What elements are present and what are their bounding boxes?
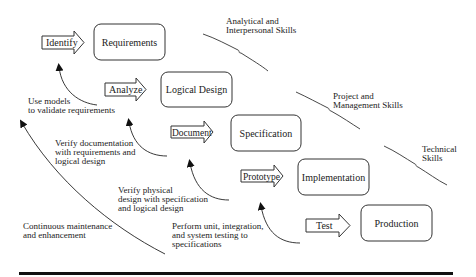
stage-prototype: Prototype <box>241 165 283 187</box>
phase-production: Production <box>361 205 432 241</box>
phase-label-specification: Specification <box>240 128 293 139</box>
skill-label-analytical-2: Interpersonal Skills <box>226 25 297 35</box>
feedback-verify-physical: Verify physical design with specificatio… <box>118 163 229 213</box>
phase-logical-design: Logical Design <box>161 72 232 107</box>
skill-label-project-2: Management Skills <box>333 100 403 110</box>
action-label-test: Test <box>316 220 333 231</box>
phase-label-implementation: Implementation <box>302 172 365 183</box>
action-label-analyze: Analyze <box>109 84 143 95</box>
phase-implementation: Implementation <box>298 159 369 195</box>
sdlc-diagram: Identify Requirements Analyze Logical De… <box>0 0 476 277</box>
feedback-arrow <box>261 206 300 243</box>
feedback-verify-documentation: Verify documentation with requirements a… <box>55 122 167 166</box>
stage-analyze: Analyze <box>105 78 146 101</box>
skill-divider-line <box>203 34 268 71</box>
feedback-perform-testing: Perform unit, integration, and system te… <box>172 206 300 249</box>
feedback-label-line: specifications <box>172 239 222 249</box>
feedback-label-line: to validate requirements <box>28 105 115 115</box>
skill-technical: Technical Skills <box>384 144 457 185</box>
skill-project: Project and Management Skills <box>296 91 403 129</box>
skill-label-technical-2: Skills <box>422 153 443 163</box>
phase-requirements: Requirements <box>94 24 165 60</box>
stage-test: Test <box>306 214 350 237</box>
action-label-prototype: Prototype <box>243 172 280 182</box>
phase-label-requirements: Requirements <box>102 37 158 48</box>
action-label-identify: Identify <box>46 37 78 48</box>
skill-analytical: Analytical and Interpersonal Skills <box>203 16 297 71</box>
stage-document: Document <box>171 121 213 143</box>
feedback-label-line: logical design <box>55 156 106 166</box>
feedback-label-line: and enhancement <box>23 230 86 240</box>
bottom-rule <box>19 272 453 275</box>
feedback-validate-requirements: Use models to validate requirements <box>28 67 115 115</box>
diagram-canvas: Identify Requirements Analyze Logical De… <box>0 0 476 277</box>
phase-label-logical-design: Logical Design <box>166 84 227 95</box>
phase-label-production: Production <box>375 218 419 229</box>
phase-specification: Specification <box>231 115 301 151</box>
action-label-document: Document <box>172 128 212 138</box>
feedback-label-line: and logical design <box>118 203 184 213</box>
stage-identify: Identify <box>42 31 84 54</box>
